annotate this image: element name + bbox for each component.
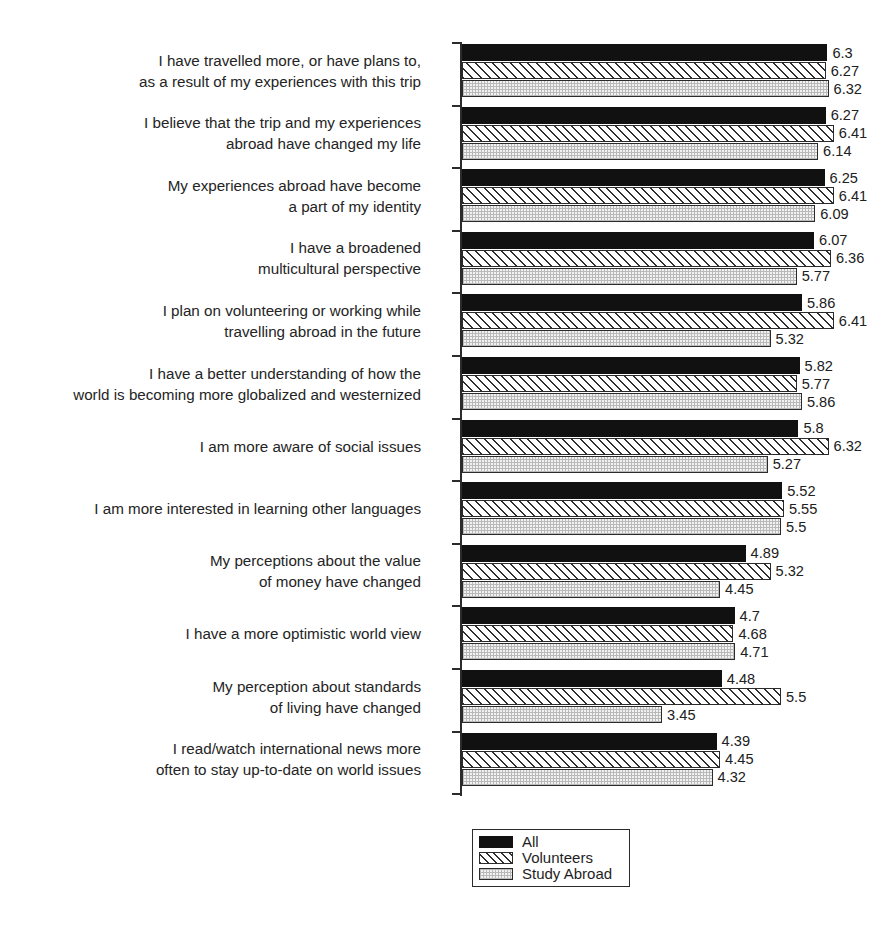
axis-tick	[452, 793, 461, 795]
legend-item-all: All	[479, 834, 623, 849]
bar-value-label: 4.48	[722, 671, 755, 687]
bar-study_abroad	[462, 769, 713, 786]
bar-row: 6.36	[462, 250, 892, 267]
bar-value-label: 5.55	[784, 501, 817, 517]
bar-value-label: 4.32	[713, 769, 746, 785]
bar-study_abroad	[462, 518, 781, 535]
bar-value-label: 5.86	[802, 295, 835, 311]
bar-study_abroad	[462, 330, 771, 347]
legend-swatch-study_abroad	[479, 868, 513, 880]
bar-value-label: 6.32	[829, 438, 862, 454]
bar-row: 4.45	[462, 751, 892, 768]
bar-study_abroad	[462, 456, 768, 473]
bar-row: 6.41	[462, 187, 892, 204]
bar-all	[462, 357, 800, 374]
bar-volunteers	[462, 187, 834, 204]
chart-legend: AllVolunteersStudy Abroad	[472, 829, 630, 887]
category-label: I am more interested in learning other l…	[0, 498, 432, 519]
bar-all	[462, 232, 814, 249]
bar-volunteers	[462, 625, 733, 642]
bar-row: 5.77	[462, 375, 892, 392]
bar-study_abroad	[462, 268, 797, 285]
bar-row: 6.07	[462, 232, 892, 249]
category-label: My experiences abroad have become a part…	[0, 175, 432, 217]
category-label: I read/watch international news more oft…	[0, 738, 432, 780]
bar-row: 4.45	[462, 581, 892, 598]
bar-value-label: 4.45	[720, 581, 753, 597]
category-label: I have a broadened multicultural perspec…	[0, 237, 432, 279]
bar-value-label: 4.45	[720, 751, 753, 767]
bar-row: 5.5	[462, 688, 892, 705]
legend-item-volunteers: Volunteers	[479, 850, 623, 865]
bar-value-label: 5.8	[798, 420, 823, 436]
bar-row: 6.32	[462, 438, 892, 455]
bar-value-label: 6.09	[815, 206, 848, 222]
bar-all	[462, 607, 735, 624]
bar-value-label: 4.7	[735, 608, 760, 624]
bar-value-label: 4.39	[717, 733, 750, 749]
category-group: I read/watch international news more oft…	[0, 733, 892, 786]
bar-study_abroad	[462, 643, 735, 660]
category-group: I plan on volunteering or working while …	[0, 294, 892, 347]
bar-value-label: 6.25	[825, 170, 858, 186]
bar-value-label: 4.89	[746, 545, 779, 561]
bar-all	[462, 482, 782, 499]
category-label: I have a better understanding of how the…	[0, 363, 432, 405]
bar-row: 4.71	[462, 643, 892, 660]
bar-value-label: 5.82	[800, 358, 833, 374]
bar-value-label: 6.27	[826, 63, 859, 79]
bar-row: 6.41	[462, 125, 892, 142]
bar-row: 6.09	[462, 205, 892, 222]
bar-all	[462, 44, 827, 61]
bar-volunteers	[462, 500, 784, 517]
bar-value-label: 5.27	[768, 456, 801, 472]
bar-row: 4.48	[462, 670, 892, 687]
bar-row: 5.82	[462, 357, 892, 374]
bar-row: 6.3	[462, 44, 892, 61]
bar-value-label: 6.3	[827, 45, 852, 61]
bar-row: 3.45	[462, 706, 892, 723]
bar-study_abroad	[462, 581, 720, 598]
bar-value-label: 6.32	[829, 81, 862, 97]
bar-value-label: 5.32	[771, 331, 804, 347]
bar-value-label: 5.77	[797, 268, 830, 284]
bar-row: 5.52	[462, 482, 892, 499]
category-label: I have travelled more, or have plans to,…	[0, 50, 432, 92]
bar-value-label: 5.5	[781, 689, 806, 705]
bar-row: 5.5	[462, 518, 892, 535]
category-group: I have a broadened multicultural perspec…	[0, 232, 892, 285]
bar-row: 4.39	[462, 733, 892, 750]
bar-study_abroad	[462, 143, 818, 160]
bar-all	[462, 545, 746, 562]
bar-all	[462, 169, 825, 186]
bar-volunteers	[462, 438, 829, 455]
category-group: My perception about standards of living …	[0, 670, 892, 723]
bar-value-label: 3.45	[662, 707, 695, 723]
bar-value-label: 6.41	[834, 125, 867, 141]
category-group: I am more aware of social issues5.86.325…	[0, 420, 892, 473]
bar-value-label: 6.27	[826, 107, 859, 123]
category-label: I believe that the trip and my experienc…	[0, 112, 432, 154]
legend-item-study_abroad: Study Abroad	[479, 866, 623, 881]
bar-study_abroad	[462, 80, 829, 97]
bar-row: 5.32	[462, 563, 892, 580]
bar-all	[462, 733, 717, 750]
bar-row: 4.32	[462, 769, 892, 786]
category-label: My perceptions about the value of money …	[0, 550, 432, 592]
legend-swatch-volunteers	[479, 852, 513, 864]
bar-volunteers	[462, 688, 781, 705]
legend-label: Volunteers	[522, 849, 593, 866]
bar-row: 4.89	[462, 545, 892, 562]
category-group: I am more interested in learning other l…	[0, 482, 892, 535]
bar-value-label: 6.41	[834, 313, 867, 329]
bar-value-label: 4.71	[735, 644, 768, 660]
bar-all	[462, 107, 826, 124]
category-label: I am more aware of social issues	[0, 436, 432, 457]
bar-volunteers	[462, 62, 826, 79]
bar-value-label: 5.86	[802, 394, 835, 410]
bar-volunteers	[462, 250, 831, 267]
category-group: I believe that the trip and my experienc…	[0, 107, 892, 160]
bar-row: 6.32	[462, 80, 892, 97]
bar-row: 5.77	[462, 268, 892, 285]
bar-volunteers	[462, 125, 834, 142]
